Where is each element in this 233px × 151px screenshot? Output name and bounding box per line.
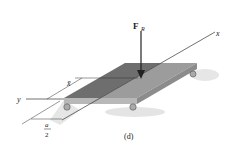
force-label: F (133, 21, 139, 31)
plate-front-face (64, 98, 137, 104)
distributed-load-diagram: F R x y x̄ a 2 (d) (0, 0, 233, 151)
x-axis-label: x (215, 29, 220, 38)
xbar-label: x̄ (66, 79, 71, 88)
a-numerator: a (45, 121, 49, 129)
force-subscript: R (140, 26, 145, 32)
a-denominator: 2 (45, 131, 49, 139)
figure-caption: (d) (124, 132, 134, 141)
support-foot (190, 71, 196, 77)
support-foot (64, 104, 70, 110)
y-axis-label: y (16, 95, 21, 104)
support-foot (130, 104, 136, 110)
